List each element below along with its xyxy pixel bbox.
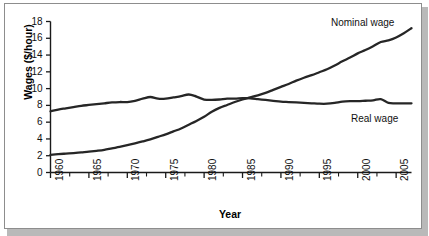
nominal-wage-label: Nominal wage — [331, 17, 394, 28]
y-tick-label: 4 — [23, 134, 43, 144]
x-tick-label: 2005 — [400, 158, 410, 180]
x-tick-label: 1995 — [323, 158, 333, 180]
y-tick-label: 6 — [23, 117, 43, 127]
x-axis-title: Year — [50, 208, 410, 220]
real-wage-label: Real wage — [351, 113, 398, 124]
x-tick-label: 1980 — [208, 158, 218, 180]
nominal-wage-line — [51, 28, 412, 155]
x-tick-label: 1965 — [93, 158, 103, 180]
x-tick-label: 1970 — [131, 158, 141, 180]
y-tick-label: 0 — [23, 168, 43, 178]
x-tick-label: 1960 — [55, 158, 65, 180]
x-tick-label: 2000 — [362, 158, 372, 180]
x-tick-label: 1985 — [247, 158, 257, 180]
x-tick-label: 1975 — [170, 158, 180, 180]
y-axis-title: Wages ($/hour) — [22, 12, 34, 112]
x-tick-label: 1990 — [285, 158, 295, 180]
y-tick-label: 2 — [23, 151, 43, 161]
wages-line-chart-figure: 181614121086420 196019651970197519801985… — [0, 0, 429, 236]
